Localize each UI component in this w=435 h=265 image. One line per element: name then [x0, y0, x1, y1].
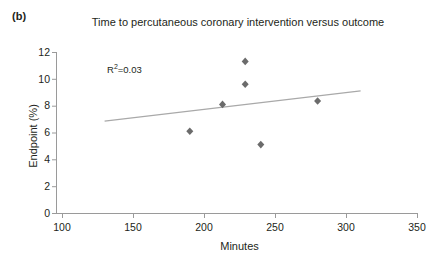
y-tick-marks: [52, 53, 56, 214]
figure-panel: (b) Time to percutaneous coronary interv…: [0, 0, 435, 265]
data-point: [257, 141, 264, 149]
plot-area: [0, 0, 435, 265]
data-point: [314, 97, 321, 105]
trend-line: [105, 91, 361, 121]
data-point: [186, 127, 193, 135]
data-point: [242, 80, 249, 88]
data-point: [242, 58, 249, 66]
